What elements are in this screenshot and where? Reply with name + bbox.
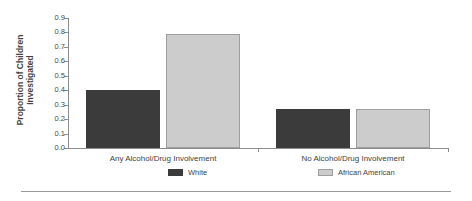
y-axis-tick-label: 0.6 <box>55 56 65 65</box>
bar <box>166 34 240 148</box>
y-axis-tick-label: 0.8 <box>55 27 65 36</box>
y-axis-tick-label: 0.1 <box>55 129 65 138</box>
y-axis-line <box>68 18 69 148</box>
y-axis-tick-label: 0.5 <box>55 71 65 80</box>
legend-swatch-icon <box>168 169 183 176</box>
legend-item: White <box>168 168 207 177</box>
chart-legend: WhiteAfrican American <box>0 168 472 182</box>
legend-item: African American <box>318 168 395 177</box>
y-axis-tick-label: 0.3 <box>55 100 65 109</box>
x-axis-tick-mark <box>448 148 449 152</box>
legend-label: African American <box>338 168 395 177</box>
y-axis-tick-label: 0.4 <box>55 85 65 94</box>
plot-area: 0.00.10.20.30.40.50.60.70.80.9 Any Alcoh… <box>68 18 448 148</box>
x-axis-tick-mark <box>258 148 259 152</box>
y-axis-tick-label: 0.7 <box>55 42 65 51</box>
y-axis-title-line-1: Proportion of Children <box>15 35 25 126</box>
x-axis-category-label: No Alcohol/Drug Involvement <box>301 154 404 163</box>
legend-swatch-icon <box>318 169 333 176</box>
footer-divider <box>21 191 451 192</box>
x-axis-category-label: Any Alcohol/Drug Involvement <box>110 154 217 163</box>
y-axis-tick-label: 0.9 <box>55 13 65 22</box>
bar <box>86 90 160 148</box>
bar-chart-figure: Proportion of Children Investigated 0.00… <box>0 0 472 201</box>
y-axis-title-line-2: Investigated <box>25 55 35 105</box>
y-axis-title: Proportion of Children Investigated <box>14 10 36 150</box>
legend-label: White <box>188 168 207 177</box>
bar <box>276 109 350 148</box>
y-axis-tick-label: 0.2 <box>55 114 65 123</box>
y-axis-tick-label: 0.0 <box>55 143 65 152</box>
bar <box>356 109 430 148</box>
